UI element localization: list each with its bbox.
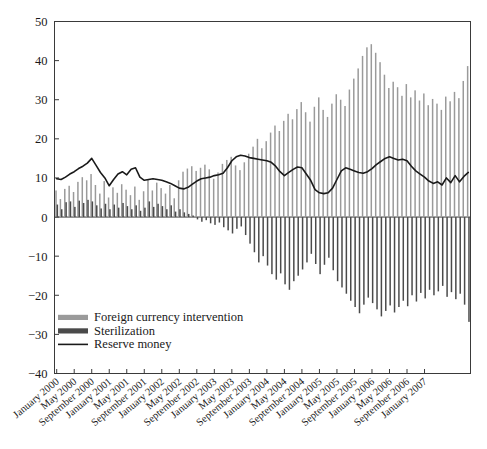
bar-intervention	[252, 147, 253, 217]
bar-sterilization	[157, 204, 158, 217]
y-tick-label: 20	[35, 132, 48, 146]
bar-sterilization	[403, 217, 404, 301]
bar-sterilization	[341, 217, 342, 287]
bar-intervention	[392, 82, 393, 217]
bar-sterilization	[346, 217, 347, 294]
bar-intervention	[322, 110, 323, 217]
bar-intervention	[410, 97, 411, 217]
bar-sterilization	[363, 217, 364, 305]
bar-intervention	[467, 66, 468, 217]
bar-sterilization	[459, 217, 460, 294]
bar-sterilization	[109, 209, 110, 217]
bar-intervention	[454, 92, 455, 217]
bar-intervention	[174, 198, 175, 217]
bar-intervention	[204, 165, 205, 217]
bar-intervention	[90, 174, 91, 217]
bar-intervention	[244, 162, 245, 217]
legend-swatch-bar	[58, 315, 88, 320]
bar-sterilization	[464, 217, 465, 305]
bar-intervention	[366, 47, 367, 217]
bar-intervention	[95, 185, 96, 217]
bar-intervention	[191, 166, 192, 217]
bar-sterilization	[389, 217, 390, 305]
bar-intervention	[314, 107, 315, 217]
bar-intervention	[134, 187, 135, 218]
bar-sterilization	[114, 205, 115, 218]
bar-intervention	[187, 169, 188, 217]
legend-swatch-bar	[58, 328, 88, 333]
bar-intervention	[427, 105, 428, 217]
bar-intervention	[165, 194, 166, 217]
bar-sterilization	[232, 217, 233, 233]
bar-intervention	[265, 141, 266, 217]
bar-sterilization	[328, 217, 329, 258]
bar-intervention	[235, 165, 236, 217]
bar-intervention	[108, 198, 109, 218]
bar-intervention	[261, 148, 262, 217]
bar-intervention	[362, 56, 363, 217]
bar-sterilization	[442, 217, 443, 286]
bar-sterilization	[416, 217, 417, 301]
bar-sterilization	[407, 217, 408, 306]
bar-intervention	[222, 164, 223, 217]
bar-intervention	[125, 190, 126, 217]
bar-sterilization	[118, 208, 119, 217]
bar-intervention	[463, 81, 464, 217]
bar-sterilization	[276, 217, 277, 280]
bar-intervention	[156, 183, 157, 217]
bar-sterilization	[122, 203, 123, 217]
bar-sterilization	[297, 217, 298, 276]
bar-sterilization	[411, 217, 412, 295]
bar-sterilization	[65, 202, 66, 217]
bar-intervention	[401, 96, 402, 217]
bar-sterilization	[127, 206, 128, 217]
bar-intervention	[292, 119, 293, 217]
bar-sterilization	[271, 217, 272, 274]
bar-sterilization	[468, 217, 469, 322]
bar-intervention	[77, 182, 78, 217]
bar-intervention	[143, 191, 144, 217]
bar-sterilization	[131, 209, 132, 217]
legend-label: Foreign currency intervention	[94, 310, 244, 324]
bar-intervention	[86, 180, 87, 217]
bar-intervention	[349, 90, 350, 218]
bar-sterilization	[92, 201, 93, 217]
bar-intervention	[55, 190, 56, 217]
y-tick-label: −30	[28, 328, 48, 342]
y-tick-label: 50	[35, 15, 48, 29]
bar-intervention	[445, 97, 446, 217]
bar-intervention	[432, 99, 433, 217]
bar-sterilization	[188, 214, 189, 217]
bar-intervention	[397, 87, 398, 217]
legend-label: Sterilization	[94, 324, 156, 338]
bar-intervention	[274, 126, 275, 218]
bar-sterilization	[201, 217, 202, 222]
bar-intervention	[375, 53, 376, 217]
bar-intervention	[296, 109, 297, 217]
bar-intervention	[117, 193, 118, 217]
bar-intervention	[419, 101, 420, 218]
bar-intervention	[160, 188, 161, 217]
bar-sterilization	[192, 215, 193, 217]
bar-sterilization	[324, 217, 325, 265]
bar-intervention	[436, 104, 437, 217]
y-tick-label: −20	[28, 289, 48, 303]
bar-sterilization	[306, 217, 307, 262]
bar-intervention	[257, 139, 258, 217]
bar-intervention	[195, 171, 196, 217]
bar-sterilization	[170, 205, 171, 217]
y-tick-label: 40	[35, 54, 48, 68]
bar-sterilization	[372, 217, 373, 303]
bar-sterilization	[420, 217, 421, 293]
bar-intervention	[340, 100, 341, 217]
chart-container: 50403020100−10−20−30−40January 2000May 2…	[0, 0, 487, 449]
bar-sterilization	[87, 200, 88, 217]
bar-sterilization	[262, 217, 263, 256]
bar-sterilization	[105, 204, 106, 217]
bar-intervention	[178, 180, 179, 217]
bar-intervention	[239, 170, 240, 217]
bar-sterilization	[293, 217, 294, 281]
bar-intervention	[99, 194, 100, 217]
bar-sterilization	[205, 217, 206, 220]
bar-intervention	[379, 62, 380, 217]
